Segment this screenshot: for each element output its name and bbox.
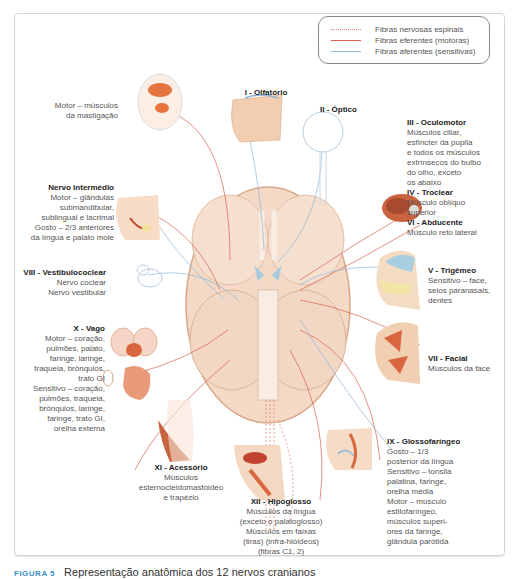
figure-number: FIGURA 5 (14, 569, 55, 578)
label-hipoglosso: XII - Hipoglosso Músculos da língua (exc… (226, 497, 336, 557)
dotted-line-icon (331, 29, 361, 30)
label-oculomotor: III - Oculomotor Músculos ciliar, esfínc… (407, 118, 507, 188)
label-glossofaringeo: IX - Glossofaríngeo Gosto – 1/3 posterio… (387, 437, 487, 547)
label-intermedio: Nervo intermédio Motor – glândulas subma… (14, 183, 114, 243)
label-trigemeo-motor: Motor – músculos da mastigação (40, 101, 118, 121)
blue-line-icon (331, 51, 361, 52)
label-troclear: IV - Troclear Músculo oblíquo superior (407, 188, 507, 218)
neck-accessory-illustration (158, 400, 194, 462)
label-vestibulococlear: VIII - Vestibulococlear Nervo coclear Ne… (14, 268, 106, 298)
head-glossopharyngeal-illustration (326, 428, 372, 470)
label-optico: II - Óptico (320, 105, 357, 115)
legend: Fibras nervosas espinais Fibras eferente… (318, 16, 490, 64)
vagus-organs-illustration (103, 328, 157, 400)
head-intermediate-illustration (116, 195, 160, 240)
face-muscles-illustration (375, 322, 420, 384)
inner-ear-illustration (137, 265, 162, 287)
caption-text: Representação anatômica dos 12 nervos cr… (64, 566, 315, 578)
figure-caption: FIGURA 5 Representação anatômica dos 12 … (14, 566, 315, 578)
label-olfatorio: I - Olfatório (236, 88, 296, 98)
label-abducente: VI - Abducente Músculo reto lateral (407, 218, 507, 238)
head-mastication-illustration (138, 74, 182, 130)
optic-illustration (303, 112, 343, 205)
face-trigeminal-illustration (376, 251, 420, 310)
label-vago: X - Vago Motor – coração, pulmões, palat… (14, 324, 105, 434)
label-acessorio: XI - Acessório Músculos esternocleidomas… (126, 463, 236, 503)
label-facial: VII - Facial Músculos da face (428, 354, 513, 374)
label-trigemeo: V - Trigêmeo Sensitivo – face, seios par… (428, 266, 513, 306)
tongue-hypoglossal-illustration (234, 445, 285, 500)
legend-item-afferent: Fibras aferentes (sensitivas) (331, 45, 475, 57)
red-line-icon (331, 40, 361, 41)
olfactory-illustration (232, 95, 282, 142)
